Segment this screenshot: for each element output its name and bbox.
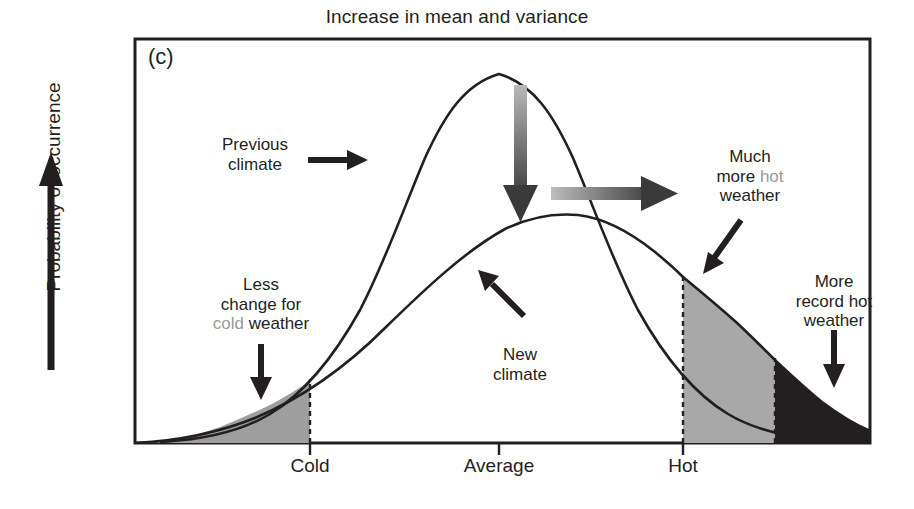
x-axis-ticks	[310, 443, 683, 455]
x-tick-label-cold: Cold	[290, 455, 329, 477]
annotation-new-climate: New climate	[465, 345, 575, 384]
annotation-more-word: more	[716, 167, 755, 186]
annotation-much-more-hot: Much more hot weather	[694, 147, 806, 206]
annotation-new-climate-line2: climate	[465, 365, 575, 385]
annotation-cold-word: cold	[213, 314, 244, 333]
annotation-more-record-hot: More record hot weather	[772, 272, 896, 331]
annotation-much-more-hot-line3: weather	[694, 186, 806, 206]
much-more-hot-arrow-icon	[703, 220, 741, 274]
annotation-previous-climate-line2: climate	[195, 155, 315, 175]
annotation-weather-word: weather	[249, 314, 309, 333]
annotation-much-more-hot-line2: more hot	[694, 167, 806, 187]
annotation-less-change-cold-line1: Less	[181, 275, 341, 295]
annotation-less-change-cold-line3: cold weather	[181, 314, 341, 334]
new-climate-arrow-icon	[478, 270, 524, 316]
annotation-less-change-cold-line2: change for	[181, 295, 341, 315]
annotation-hot-word: hot	[760, 167, 784, 186]
panel-label: (c)	[148, 44, 174, 70]
annotation-new-climate-line1: New	[465, 345, 575, 365]
less-change-cold-arrow-icon	[250, 344, 272, 400]
chart-figure: Increase in mean and variance Probabilit…	[0, 0, 914, 509]
annotation-much-more-hot-line1: Much	[694, 147, 806, 167]
annotation-more-record-hot-line2: record hot	[772, 292, 896, 312]
shade-hot-region	[683, 277, 775, 443]
x-tick-label-hot: Hot	[668, 455, 698, 477]
mean-shift-arrow-icon	[551, 176, 678, 211]
annotation-more-record-hot-line3: weather	[772, 311, 896, 331]
y-axis-arrow-icon	[39, 152, 63, 370]
more-record-hot-arrow-icon	[823, 330, 845, 388]
x-tick-label-average: Average	[464, 455, 534, 477]
previous-climate-arrow-icon	[308, 150, 368, 170]
annotation-previous-climate-line1: Previous	[195, 135, 315, 155]
chart-canvas	[0, 0, 914, 509]
annotation-less-change-cold: Less change for cold weather	[181, 275, 341, 334]
annotation-more-record-hot-line1: More	[772, 272, 896, 292]
variance-change-arrow-icon	[503, 85, 538, 222]
annotation-previous-climate: Previous climate	[195, 135, 315, 174]
